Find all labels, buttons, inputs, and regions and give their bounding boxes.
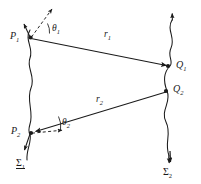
label-ray-r2: r2 (96, 95, 103, 106)
label-ray-r1: r1 (104, 30, 111, 41)
label-point-q2: Q2 (173, 84, 183, 97)
point-dot-p2 (29, 131, 33, 135)
label-point-p2: P2 (11, 126, 20, 139)
label-surface-sigma1: Σ1 (16, 158, 25, 171)
point-dot-q2 (164, 89, 168, 93)
sigma2-pointer-arrow (170, 151, 171, 162)
label-surface-sigma2: Σ2 (163, 167, 172, 180)
point-markers (28, 35, 170, 135)
normal-arrows-p1 (24, 9, 52, 37)
label-point-p1: P1 (10, 31, 19, 44)
point-dot-q1 (166, 64, 170, 68)
ray-r1-line (31, 39, 167, 66)
label-angle-theta2: θ2 (62, 118, 70, 129)
ray-diagram-figure: P1 P2 Q1 Q2 r1 r2 θ1 θ2 Σ1 Σ2 (0, 0, 201, 184)
label-point-q1: Q1 (176, 60, 186, 73)
label-angle-theta1: θ1 (52, 24, 60, 35)
point-dot-p1 (28, 35, 32, 39)
surface-sigma2-curve (164, 14, 172, 164)
diagram-canvas (0, 0, 201, 184)
